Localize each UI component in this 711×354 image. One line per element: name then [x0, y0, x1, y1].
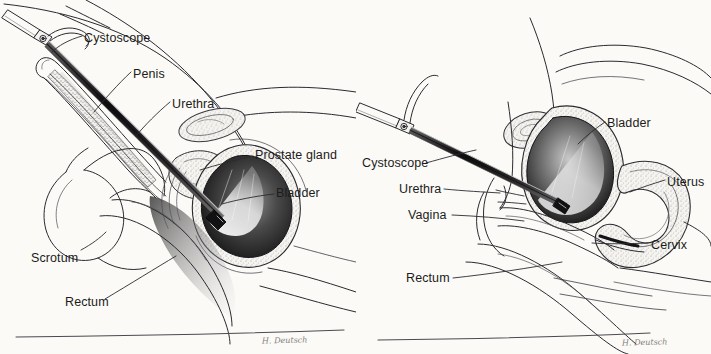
label-female-uterus: Uterus	[667, 176, 704, 189]
label-male-penis: Penis	[133, 68, 165, 81]
label-male-rectum: Rectum	[65, 296, 109, 309]
label-male-cystoscope: Cystoscope	[84, 32, 150, 45]
label-female-cystoscope: Cystoscope	[362, 157, 428, 170]
label-female-cervix: Cervix	[651, 239, 687, 252]
label-male-urethra: Urethra	[172, 98, 214, 111]
label-male-prostate-gland: Prostate gland	[255, 149, 337, 162]
label-female-vagina: Vagina	[408, 209, 447, 222]
label-female-urethra: Urethra	[399, 183, 441, 196]
label-female-bladder: Bladder	[607, 117, 651, 130]
label-male-scrotum: Scrotum	[31, 252, 78, 265]
cystoscopy-figure: Male cystoscopy (sagittal section) Cysto…	[0, 0, 711, 354]
label-female-rectum: Rectum	[406, 272, 450, 285]
label-male-bladder: Bladder	[276, 187, 320, 200]
male-panel-signature: H. Deutsch	[262, 335, 308, 345]
female-panel-signature: H. Deutsch	[622, 337, 668, 347]
